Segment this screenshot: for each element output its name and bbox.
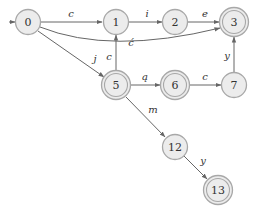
edge-2-3: e: [188, 8, 219, 22]
state-7: 7: [222, 73, 247, 98]
edge-label: y: [223, 50, 230, 61]
edge-label: c: [106, 51, 112, 62]
state-12: 12: [163, 135, 188, 160]
state-label: 0: [25, 16, 32, 29]
edge-0-3: ć: [40, 27, 220, 48]
state-6-accepting: 6: [161, 71, 190, 100]
state-1: 1: [104, 10, 129, 35]
edge-0-1: c: [41, 8, 102, 22]
edge-label: i: [145, 8, 148, 19]
state-label: 5: [113, 79, 120, 92]
state-label: 7: [231, 79, 238, 92]
edge-label: c: [202, 71, 208, 82]
edge-5-12: m: [126, 97, 165, 137]
automaton-diagram: c j ć i e c ą c y m y 0: [0, 0, 259, 214]
state-label: 1: [113, 16, 120, 29]
state-label: 12: [168, 141, 182, 154]
state-label: 2: [172, 16, 179, 29]
edge-7-3: y: [223, 37, 234, 72]
edge-label: j: [91, 53, 96, 64]
state-3-accepting: 3: [220, 8, 249, 37]
edge-0-5: j: [38, 31, 104, 77]
edge-label: c: [68, 8, 74, 19]
state-label: 3: [231, 16, 238, 29]
state-label: 6: [172, 79, 179, 92]
state-label: 13: [211, 184, 225, 197]
edge-1-2: i: [129, 8, 162, 22]
edge-label: e: [202, 8, 208, 19]
edge-label: y: [199, 155, 206, 166]
state-5-accepting: 5: [102, 71, 131, 100]
edge-6-7: c: [190, 71, 221, 85]
edge-label: ć: [128, 37, 134, 48]
edge-5-6: ą: [131, 71, 160, 85]
edge-label: m: [148, 104, 157, 115]
edge-12-13: y: [184, 155, 207, 179]
edge-label: ą: [142, 71, 148, 82]
state-0: 0: [16, 10, 41, 35]
edge-5-1: c: [106, 35, 116, 70]
state-13-accepting: 13: [204, 176, 233, 205]
state-2: 2: [163, 10, 188, 35]
